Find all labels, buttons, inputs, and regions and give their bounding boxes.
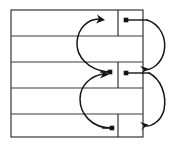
diagram-root bbox=[0, 0, 179, 146]
node-dot-row3-left bbox=[108, 70, 113, 75]
node-dot-row5-left bbox=[110, 126, 115, 131]
node-dot-row3-right bbox=[124, 71, 129, 76]
link-curve-left-lower bbox=[80, 74, 111, 128]
table-outline bbox=[11, 10, 143, 137]
link-curve-right-lower bbox=[144, 73, 165, 126]
linked-list-diagram bbox=[0, 0, 179, 146]
link-curve-right-upper bbox=[144, 20, 165, 70]
node-dot-row1-right bbox=[124, 18, 129, 23]
link-curve-left-upper bbox=[77, 19, 108, 72]
